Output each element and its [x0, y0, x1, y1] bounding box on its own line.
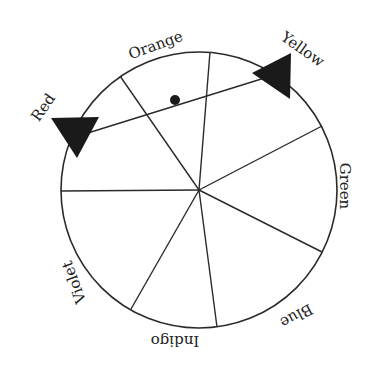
spoke-lower-right — [199, 190, 322, 252]
arrowhead-yellow-icon — [252, 53, 291, 99]
arrowhead-red-icon — [51, 117, 99, 158]
spoke-left — [61, 190, 199, 191]
spoke-upper-right — [199, 126, 322, 190]
label-indigo: Indigo — [151, 332, 200, 350]
color-wheel-diagram: OrangeYellowGreenBlueIndigoVioletRed — [0, 0, 380, 367]
spoke-lower-left — [131, 190, 199, 309]
spoke-upper-left — [120, 76, 199, 190]
pivot-dot — [170, 95, 180, 105]
label-green: Green — [336, 163, 354, 210]
spoke-top — [199, 52, 210, 190]
label-orange: Orange — [126, 27, 185, 63]
label-violet: Violet — [58, 259, 90, 308]
spoke-bottom — [199, 190, 217, 327]
label-blue: Blue — [277, 300, 316, 332]
pointer-line — [75, 76, 271, 137]
color-wheel-canvas: OrangeYellowGreenBlueIndigoVioletRed — [0, 0, 380, 367]
